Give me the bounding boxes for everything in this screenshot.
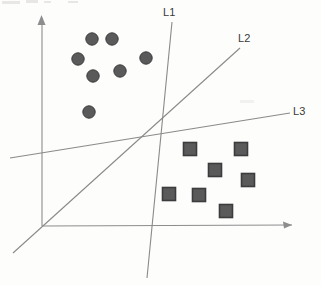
decision-line-label-l1: L1 xyxy=(163,7,176,18)
data-point-circle xyxy=(83,106,95,118)
x-axis-arrowhead xyxy=(283,222,292,229)
data-point-square xyxy=(209,164,222,177)
data-point-square xyxy=(163,188,176,201)
data-point-circle xyxy=(140,52,152,64)
data-point-circle xyxy=(106,33,118,45)
decision-line-label-l2: L2 xyxy=(238,33,251,44)
data-point-circle xyxy=(72,53,84,65)
series-class-circle xyxy=(72,33,152,118)
data-point-circle xyxy=(87,70,99,82)
data-point-circle xyxy=(114,65,126,77)
data-point-square xyxy=(184,143,197,156)
series-class-square xyxy=(163,143,255,218)
y-axis-arrowhead xyxy=(38,15,46,25)
data-point-square xyxy=(242,174,255,187)
scatter-plot xyxy=(0,0,321,286)
data-point-square xyxy=(220,205,233,218)
data-point-square xyxy=(235,143,248,156)
data-point-circle xyxy=(86,33,98,45)
data-point-square xyxy=(193,189,206,202)
decision-line-l2 xyxy=(13,48,240,253)
figure-canvas: L1 L2 L3 xyxy=(0,0,321,286)
x-axis xyxy=(42,225,292,226)
decision-line-label-l3: L3 xyxy=(293,106,306,117)
